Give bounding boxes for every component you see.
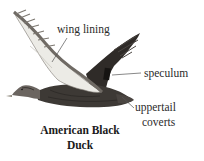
label-wing-lining: wing lining <box>57 23 110 35</box>
leader-speculum <box>112 73 141 75</box>
duck-head <box>6 85 40 99</box>
label-coverts: coverts <box>142 116 175 128</box>
title-line-2: Duck <box>30 138 130 153</box>
far-wing <box>86 33 140 88</box>
label-speculum: speculum <box>144 67 188 79</box>
title-line-1: American Black <box>30 123 130 138</box>
label-uppertail: uppertail <box>135 101 176 113</box>
diagram-title: American Black Duck <box>30 123 130 153</box>
